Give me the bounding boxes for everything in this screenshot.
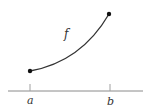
function-curve <box>30 14 109 71</box>
label-a: a <box>27 94 34 107</box>
function-label: f <box>63 27 71 41</box>
function-diagram: f a b <box>0 0 148 112</box>
right-endpoint-dot <box>107 12 111 16</box>
left-endpoint-dot <box>28 69 32 73</box>
label-b: b <box>107 95 114 108</box>
